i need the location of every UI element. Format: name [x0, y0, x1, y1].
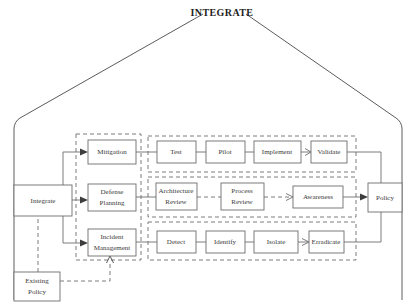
node-architecture-review-label-2: Review — [165, 198, 187, 206]
node-mitigation[interactable]: Mitigation — [88, 140, 136, 164]
node-incident-management-label-2: Management — [94, 244, 131, 252]
node-pilot-label: Pilot — [218, 148, 231, 156]
node-process-review-label-1: Process — [231, 187, 253, 195]
node-process-review-label-2: Review — [231, 198, 253, 206]
connector-row2-to-policy — [343, 194, 368, 201]
node-pilot[interactable]: Pilot — [206, 141, 245, 163]
node-test[interactable]: Test — [157, 141, 196, 163]
node-awareness[interactable]: Awareness — [293, 186, 343, 208]
node-test-label: Test — [170, 148, 182, 156]
node-identify-label: Identify — [214, 238, 237, 246]
node-incident-management[interactable]: Incident Management — [88, 229, 136, 256]
node-defense-planning[interactable]: Defense Planning — [88, 184, 136, 211]
node-defense-planning-label-1: Defense — [101, 188, 124, 196]
node-mitigation-label: Mitigation — [97, 148, 127, 156]
page-title: INTEGRATE — [191, 7, 254, 18]
node-identify[interactable]: Identify — [206, 231, 245, 253]
connector-existingpolicy-to-integrate — [35, 209, 42, 272]
node-isolate-label: Isolate — [267, 238, 286, 246]
node-integrate-label: Integrate — [31, 197, 56, 205]
node-detect-label: Detect — [167, 238, 185, 246]
node-validate[interactable]: Validate — [311, 141, 347, 163]
node-policy-label: Policy — [376, 194, 394, 202]
node-implement-label: Implement — [262, 148, 292, 156]
node-detect[interactable]: Detect — [157, 231, 196, 253]
node-architecture-review[interactable]: Architecture Review — [156, 183, 197, 210]
node-architecture-review-label-1: Architecture — [159, 187, 194, 195]
node-defense-planning-label-2: Planning — [100, 199, 125, 207]
node-validate-label: Validate — [318, 148, 341, 156]
node-erradicate-label: Erradicate — [312, 238, 341, 246]
node-integrate[interactable]: Integrate — [14, 185, 72, 216]
node-incident-management-label-1: Incident — [101, 233, 124, 241]
integrate-process-diagram: INTEGRATE — [0, 0, 416, 308]
node-process-review[interactable]: Process Review — [221, 183, 264, 210]
node-implement[interactable]: Implement — [254, 141, 301, 163]
node-existing-policy-label-1: Existing — [25, 277, 49, 285]
node-erradicate[interactable]: Erradicate — [309, 231, 344, 253]
node-policy[interactable]: Policy — [368, 183, 402, 212]
diagram-canvas: INTEGRATE — [0, 0, 416, 308]
node-awareness-label: Awareness — [303, 193, 333, 201]
node-existing-policy-label-2: Policy — [28, 288, 46, 296]
node-isolate[interactable]: Isolate — [254, 231, 298, 253]
node-existing-policy[interactable]: Existing Policy — [14, 272, 60, 301]
